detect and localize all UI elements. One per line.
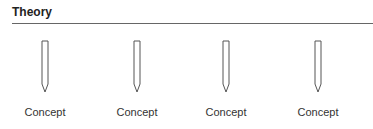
diagram-title: Theory <box>12 5 52 19</box>
concept-node: Concept <box>97 40 177 94</box>
down-arrow-icon <box>132 40 142 94</box>
concept-label: Concept <box>97 106 177 118</box>
down-arrow-icon <box>221 40 231 94</box>
concept-node: Concept <box>186 40 266 94</box>
down-arrow-icon <box>313 40 323 94</box>
concept-label: Concept <box>278 106 358 118</box>
concept-label: Concept <box>5 106 85 118</box>
down-arrow-icon <box>40 40 50 94</box>
concept-label: Concept <box>186 106 266 118</box>
concept-node: Concept <box>5 40 85 94</box>
title-divider <box>12 23 373 24</box>
concept-node: Concept <box>278 40 358 94</box>
